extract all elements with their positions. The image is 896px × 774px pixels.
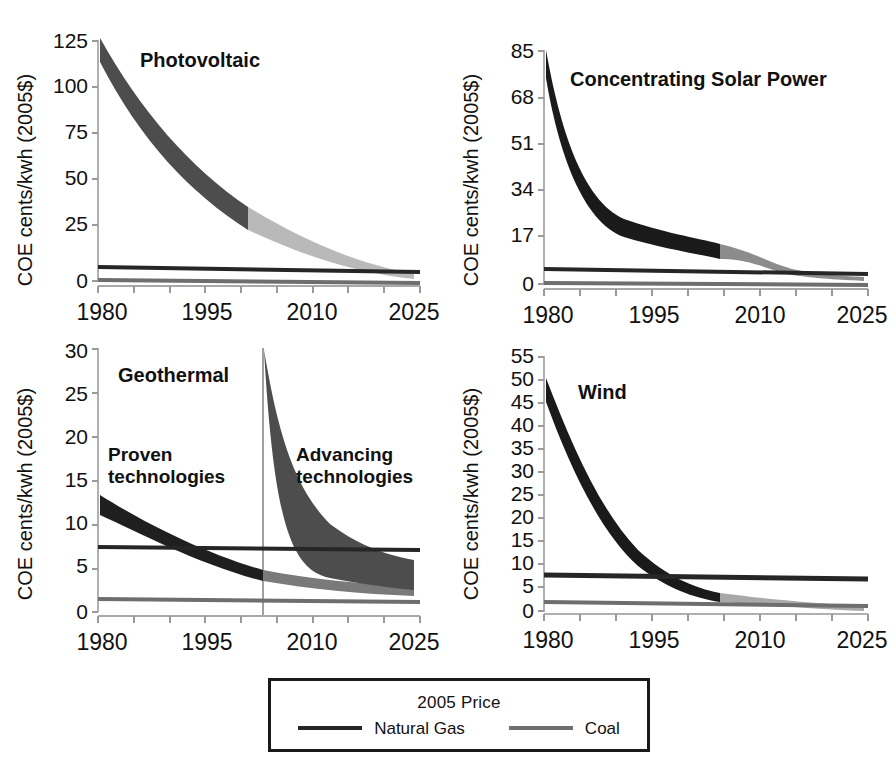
- legend-item-coal: Coal: [509, 720, 620, 737]
- x-tick-label: 2025: [836, 302, 887, 328]
- wind-band-projected: [720, 593, 864, 611]
- y-tick-label: 17: [511, 223, 534, 246]
- geothermal-proven-historical: [100, 495, 263, 581]
- renewable-cost-figure: COE cents/kwh (2005$) 125 100 75 50 25 0: [0, 0, 896, 774]
- y-tick-label: 75: [65, 120, 88, 143]
- panel-title-wind: Wind: [578, 381, 627, 403]
- panel-geothermal: COE cents/kwh (2005$) 30 25 20 15 10 5 0: [0, 334, 448, 664]
- y-tick-label: 15: [65, 468, 88, 491]
- x-tick-label: 2010: [286, 299, 337, 325]
- y-tick-label: 0: [76, 600, 88, 623]
- y-tick-label: 125: [53, 29, 88, 52]
- line-swatch-icon-natural-gas: [298, 726, 362, 730]
- x-tick-label: 1995: [181, 299, 232, 325]
- legend-label-natural-gas: Natural Gas: [374, 720, 465, 737]
- x-tick-label: 2010: [286, 629, 337, 655]
- y-axis-title: COE cents/kwh (2005$): [14, 388, 36, 600]
- x-axis-ticks: [544, 289, 868, 296]
- y-tick-label: 35: [511, 436, 534, 459]
- x-axis-ticks: [98, 616, 420, 623]
- csp-chart: COE cents/kwh (2005$) 85 68 51 34 17 0: [448, 0, 896, 340]
- y-tick-label: 40: [511, 413, 534, 436]
- y-tick-label: 5: [76, 554, 88, 577]
- y-tick-label: 0: [76, 269, 88, 292]
- y-tick-label: 20: [511, 505, 534, 528]
- y-axis-title: COE cents/kwh (2005$): [460, 388, 482, 600]
- y-tick-label: 20: [65, 425, 88, 448]
- panel-title-geothermal: Geothermal: [118, 364, 229, 386]
- y-tick-label: 30: [511, 459, 534, 482]
- x-axis-ticks: [544, 614, 868, 621]
- panel-title-csp: Concentrating Solar Power: [570, 68, 827, 90]
- x-tick-label: 2010: [734, 627, 785, 653]
- y-tick-label: 85: [511, 39, 534, 62]
- y-tick-label: 25: [65, 382, 88, 405]
- panel-photovoltaic: COE cents/kwh (2005$) 125 100 75 50 25 0: [0, 0, 448, 340]
- line-swatch-icon-coal: [509, 726, 573, 730]
- legend-box: 2005 Price Natural Gas Coal: [268, 678, 650, 752]
- x-tick-label: 1980: [522, 627, 573, 653]
- y-tick-label: 55: [511, 344, 534, 367]
- x-tick-label: 1980: [76, 629, 127, 655]
- legend-title: 2005 Price: [417, 694, 500, 711]
- y-tick-label: 25: [65, 212, 88, 235]
- legend-items: Natural Gas Coal: [271, 720, 647, 737]
- annotation-proven-line2: technologies: [108, 466, 225, 487]
- y-tick-label: 10: [65, 511, 88, 534]
- annotation-advancing-line1: Advancing: [296, 444, 393, 465]
- coal-line: [98, 599, 420, 602]
- y-tick-label: 0: [522, 272, 534, 295]
- y-axis-title: COE cents/kwh (2005$): [460, 74, 482, 286]
- y-tick-label: 5: [522, 574, 534, 597]
- y-tick-label: 10: [511, 551, 534, 574]
- natural-gas-line: [544, 269, 868, 274]
- panel-wind: COE cents/kwh (2005$) 55 50 45 40 35 30 …: [448, 334, 896, 664]
- y-tick-label: 50: [65, 166, 88, 189]
- legend: 2005 Price Natural Gas Coal: [268, 678, 650, 752]
- y-tick-label: 68: [511, 85, 534, 108]
- annotation-advancing-line2: technologies: [296, 466, 413, 487]
- x-tick-label: 2025: [388, 299, 439, 325]
- x-tick-label: 1995: [628, 627, 679, 653]
- natural-gas-line: [98, 547, 420, 550]
- y-tick-label: 51: [511, 131, 534, 154]
- x-tick-label: 1995: [628, 302, 679, 328]
- y-tick-label: 30: [65, 339, 88, 362]
- coal-line: [544, 283, 868, 285]
- x-tick-label: 1980: [522, 302, 573, 328]
- x-tick-label: 2010: [734, 302, 785, 328]
- coal-line: [544, 602, 868, 606]
- y-tick-label: 45: [511, 390, 534, 413]
- x-tick-label: 2025: [388, 629, 439, 655]
- photovoltaic-chart: COE cents/kwh (2005$) 125 100 75 50 25 0: [0, 0, 448, 340]
- x-tick-label: 1980: [76, 299, 127, 325]
- x-tick-label: 1995: [181, 629, 232, 655]
- x-tick-label: 2025: [836, 627, 887, 653]
- y-tick-label: 100: [53, 74, 88, 97]
- y-tick-label: 25: [511, 482, 534, 505]
- panel-concentrating-solar-power: COE cents/kwh (2005$) 85 68 51 34 17 0: [448, 0, 896, 340]
- geothermal-chart: COE cents/kwh (2005$) 30 25 20 15 10 5 0: [0, 334, 448, 664]
- panel-title-photovoltaic: Photovoltaic: [140, 49, 260, 71]
- wind-chart: COE cents/kwh (2005$) 55 50 45 40 35 30 …: [448, 334, 896, 664]
- y-tick-label: 34: [511, 177, 535, 200]
- y-tick-label: 15: [511, 528, 534, 551]
- natural-gas-line: [544, 575, 868, 579]
- legend-item-natural-gas: Natural Gas: [298, 720, 465, 737]
- coal-line: [98, 280, 420, 283]
- y-tick-label: 0: [522, 599, 534, 622]
- legend-label-coal: Coal: [585, 720, 620, 737]
- annotation-proven-line1: Proven: [108, 444, 172, 465]
- x-axis-ticks: [98, 286, 420, 293]
- y-axis-title: COE cents/kwh (2005$): [14, 74, 36, 286]
- y-tick-label: 50: [511, 367, 534, 390]
- wind-band-historical: [546, 378, 720, 602]
